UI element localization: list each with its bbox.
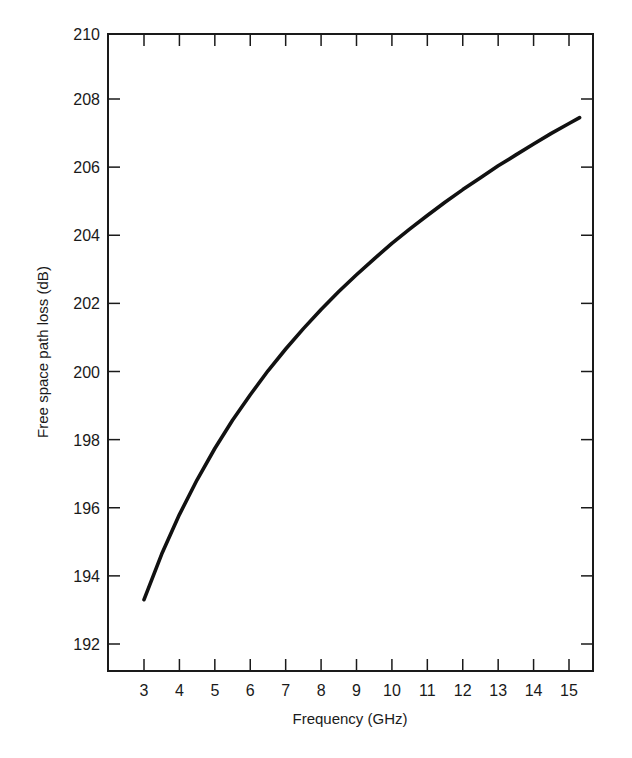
y-tick-label: 192 bbox=[73, 636, 100, 653]
y-tick-label: 208 bbox=[73, 91, 100, 108]
x-tick-label: 10 bbox=[383, 682, 401, 699]
x-tick-label: 9 bbox=[352, 682, 361, 699]
x-tick-label: 5 bbox=[210, 682, 219, 699]
y-tick-label: 210 bbox=[73, 26, 100, 43]
x-axis-ticks: 3456789101112131415 bbox=[140, 34, 578, 699]
y-tick-label: 204 bbox=[73, 227, 100, 244]
y-tick-label: 194 bbox=[73, 568, 100, 585]
x-tick-label: 14 bbox=[525, 682, 543, 699]
y-tick-label: 198 bbox=[73, 432, 100, 449]
x-tick-label: 15 bbox=[560, 682, 578, 699]
y-axis-label: Free space path loss (dB) bbox=[34, 266, 51, 438]
plot-frame bbox=[108, 34, 593, 671]
x-axis-label: Frequency (GHz) bbox=[292, 710, 407, 727]
x-tick-label: 13 bbox=[489, 682, 507, 699]
x-tick-label: 6 bbox=[246, 682, 255, 699]
y-tick-label: 202 bbox=[73, 295, 100, 312]
x-tick-label: 11 bbox=[419, 682, 436, 699]
x-tick-label: 3 bbox=[140, 682, 149, 699]
x-tick-label: 12 bbox=[454, 682, 472, 699]
y-tick-label: 196 bbox=[73, 500, 100, 517]
path-loss-curve bbox=[144, 118, 580, 600]
y-axis-ticks: 192194196198200202204206208210 bbox=[73, 26, 593, 653]
x-tick-label: 8 bbox=[317, 682, 326, 699]
y-tick-label: 206 bbox=[73, 159, 100, 176]
x-tick-label: 4 bbox=[175, 682, 184, 699]
x-tick-label: 7 bbox=[281, 682, 290, 699]
path-loss-chart: 3456789101112131415 19219419619820020220… bbox=[0, 0, 632, 758]
y-tick-label: 200 bbox=[73, 364, 100, 381]
